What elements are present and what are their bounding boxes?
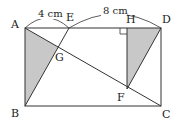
right-angle-mark: [120, 28, 127, 34]
label-e: E: [66, 11, 74, 24]
shaded-triangle-abg: [25, 28, 58, 106]
geometry-diagram: 4 cm 8 cm A E H D G F B C: [0, 0, 179, 125]
dimension-arc-ae: [25, 18, 69, 28]
label-c: C: [162, 108, 170, 121]
label-a: A: [10, 18, 20, 31]
label-d: D: [162, 13, 171, 26]
label-b: B: [11, 107, 19, 120]
dimension-label-ae: 4 cm: [38, 8, 63, 19]
label-f: F: [117, 91, 125, 104]
dimension-label-ed: 8 cm: [103, 5, 128, 16]
dimension-arc-ed: [69, 14, 161, 28]
label-g: G: [55, 51, 64, 64]
label-h: H: [126, 13, 136, 26]
